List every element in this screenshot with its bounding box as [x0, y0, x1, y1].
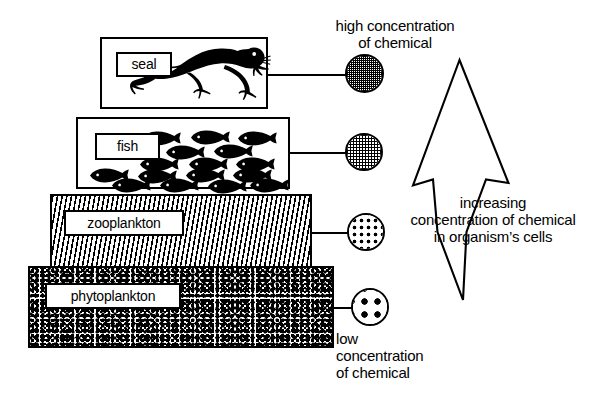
- high-concentration-line-1: high concentration: [300, 17, 490, 34]
- arrow-caption-line-1: increasing: [393, 194, 593, 211]
- tier-label-fish: fish: [95, 133, 160, 160]
- tier-label-zooplankton: zooplankton: [64, 210, 184, 236]
- arrow-caption-line-2: concentration of chemical: [393, 211, 593, 228]
- low-concentration-line-1: low: [336, 330, 516, 347]
- tier-label-seal: seal: [116, 52, 172, 77]
- concentration-marker-phytoplankton: [351, 288, 389, 326]
- arrow-caption: increasing concentration of chemical in …: [393, 194, 593, 245]
- connector-zooplankton: [310, 232, 348, 234]
- dense-crosshatch-fill: [347, 56, 382, 91]
- pyramid-tier-fish: fish: [76, 117, 290, 189]
- connector-seal: [266, 74, 346, 76]
- medium-crosshatch-fill: [347, 135, 381, 169]
- pyramid-tier-phytoplankton: phytoplankton: [28, 266, 334, 348]
- concentration-marker-seal: [345, 54, 384, 93]
- low-concentration-label: low concentration of chemical: [336, 330, 516, 381]
- pyramid-tier-seal: seal: [100, 37, 268, 109]
- connector-fish: [288, 152, 346, 154]
- high-concentration-line-2: of chemical: [300, 34, 490, 51]
- concentration-marker-zooplankton: [347, 213, 385, 251]
- low-concentration-line-2: concentration: [336, 347, 516, 364]
- concentration-marker-fish: [345, 133, 383, 171]
- very-sparse-dots-fill: [353, 290, 387, 324]
- arrow-caption-line-3: in organism’s cells: [393, 228, 593, 245]
- biomagnification-diagram: seal: [0, 0, 593, 402]
- pyramid-tier-zooplankton: zooplankton: [50, 194, 312, 271]
- high-concentration-label: high concentration of chemical: [300, 17, 490, 51]
- sparse-dots-fill: [349, 215, 383, 249]
- connector-phytoplankton: [332, 307, 352, 309]
- tier-label-phytoplankton: phytoplankton: [45, 283, 181, 309]
- low-concentration-line-3: of chemical: [336, 364, 516, 381]
